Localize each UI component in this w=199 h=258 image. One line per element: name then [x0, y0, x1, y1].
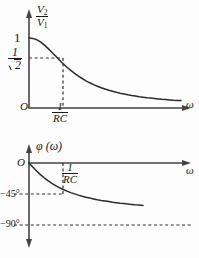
- magnitude-y-axis-denominator-subscript: 1: [44, 21, 48, 30]
- phase-plot-canvas: [0, 128, 199, 258]
- phase-y-axis-top-arrow-icon: [26, 144, 32, 153]
- magnitude-cutoff-frequency-label: 1 RC: [52, 101, 68, 124]
- magnitude-x-axis-label: ω: [186, 99, 194, 110]
- phase-y-axis-bottom-arrow-icon: [26, 239, 32, 248]
- magnitude-y-axis-label: V2 V1: [36, 4, 48, 29]
- phase-tick-label-minus-90-degrees: −90°: [0, 219, 20, 229]
- phase-response-plot: φ (ω) O 1 RC −45° −90° ω: [0, 128, 199, 258]
- magnitude-tick-label-one: 1: [14, 31, 21, 44]
- magnitude-y-axis-denominator: V1: [36, 17, 48, 29]
- phase-cutoff-denominator: RC: [62, 174, 78, 185]
- magnitude-y-axis-numerator-subscript: 2: [44, 8, 48, 17]
- magnitude-origin-label: O: [20, 101, 28, 112]
- magnitude-cutoff-denominator: RC: [52, 113, 68, 124]
- radical-icon: 2: [9, 59, 21, 71]
- phase-origin-label: O: [17, 157, 25, 168]
- magnitude-plot-canvas: [0, 0, 199, 130]
- phase-cutoff-frequency-label: 1 RC: [62, 162, 78, 185]
- phase-y-axis-label: φ (ω): [36, 140, 62, 152]
- magnitude-response-curve: [29, 38, 181, 101]
- magnitude-response-plot: V2 V1 1 1 2 O 1 RC ω: [0, 0, 199, 130]
- magnitude-y-axis-arrow-icon: [26, 9, 32, 18]
- rc-filter-frequency-response-figure: V2 V1 1 1 2 O 1 RC ω: [0, 0, 199, 258]
- sqrt-fraction-denominator: 2: [8, 59, 22, 71]
- phase-response-curve: [29, 163, 143, 205]
- phase-tick-label-minus-45-degrees: −45°: [0, 189, 20, 199]
- phase-x-axis-label: ω: [186, 165, 194, 176]
- magnitude-tick-label-one-over-sqrt-two: 1 2: [8, 46, 22, 71]
